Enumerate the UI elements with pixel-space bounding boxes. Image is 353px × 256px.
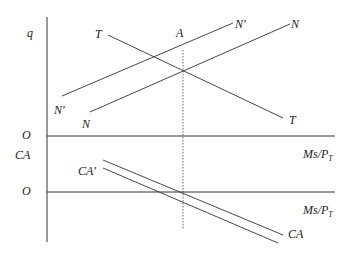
label-N-prime-start: N': [53, 103, 65, 117]
curve-N: [90, 24, 290, 112]
label-A: A: [175, 26, 184, 40]
upper-origin-label: O: [22, 128, 31, 142]
label-CA: CA: [288, 227, 304, 241]
label-CA-prime: CA': [78, 164, 96, 178]
curve-CA-prime: [103, 168, 278, 243]
y-axis-label-CA: CA: [15, 148, 31, 162]
curve-T: [108, 35, 283, 118]
upper-x-axis-label: Ms/PT: [302, 147, 333, 163]
curve-CA: [103, 160, 283, 235]
label-N-prime-end: N': [234, 17, 246, 31]
label-N-end: N: [290, 17, 300, 31]
label-T-end: T: [289, 113, 297, 127]
diagram-canvas: q T A N' N N' N T O Ms/PT CA CA' O Ms/PT…: [0, 0, 353, 256]
y-axis-label-q: q: [27, 26, 33, 40]
lower-x-axis-label: Ms/PT: [302, 203, 333, 219]
label-N-start: N: [81, 117, 91, 131]
lower-origin-label: O: [22, 184, 31, 198]
curve-N-prime: [62, 23, 233, 96]
label-T-start: T: [95, 27, 103, 41]
